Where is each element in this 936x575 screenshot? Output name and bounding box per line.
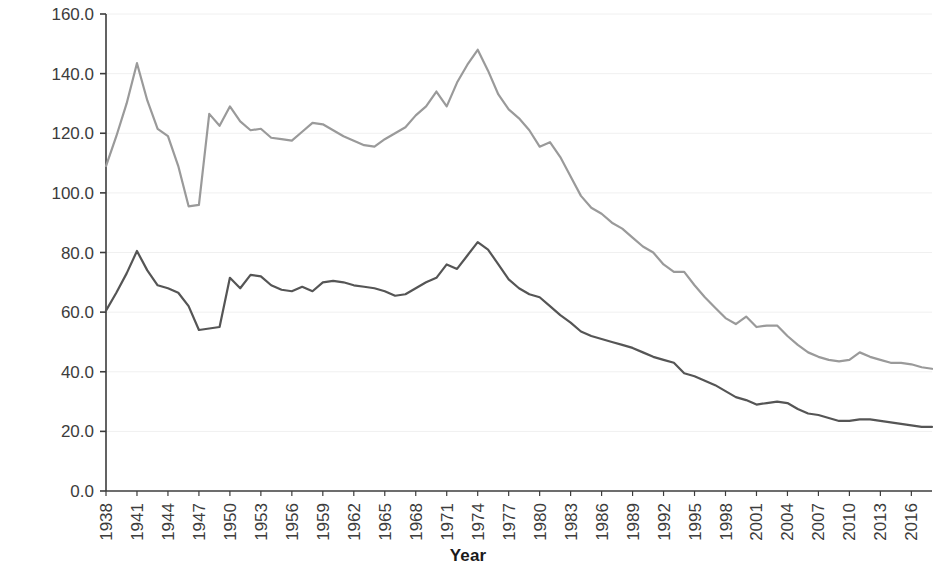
y-tick-label: 20.0 (61, 422, 94, 441)
x-axis (106, 491, 932, 496)
x-tick-label: 1977 (500, 503, 519, 541)
x-tick-label: 1974 (469, 503, 488, 541)
x-tick-label: 1998 (717, 503, 736, 541)
x-tick-label: 2004 (778, 503, 797, 541)
x-tick-label: 1938 (97, 503, 116, 541)
line-chart: 0.020.040.060.080.0100.0120.0140.0160.0 … (0, 0, 936, 575)
x-tick-label: 1956 (283, 503, 302, 541)
x-tick-labels: 1938194119441947195019531956195919621965… (97, 503, 921, 541)
y-tick-labels: 0.020.040.060.080.0100.0120.0140.0160.0 (51, 5, 94, 501)
x-tick-label: 1959 (314, 503, 333, 541)
x-tick-label: 2001 (747, 503, 766, 541)
x-tick-label: 1947 (190, 503, 209, 541)
y-tick-label: 160.0 (51, 5, 94, 24)
series-line-upper-series (106, 50, 932, 369)
x-tick-label: 1941 (128, 503, 147, 541)
x-tick-label: 1944 (159, 503, 178, 541)
x-tick-label: 1971 (438, 503, 457, 541)
y-tick-label: 120.0 (51, 124, 94, 143)
x-tick-label: 1992 (655, 503, 674, 541)
y-tick-label: 100.0 (51, 184, 94, 203)
x-tick-label: 1986 (593, 503, 612, 541)
x-axis-title: Year (0, 546, 936, 566)
x-tick-label: 1989 (624, 503, 643, 541)
x-tick-label: 2007 (809, 503, 828, 541)
x-tick-label: 1995 (686, 503, 705, 541)
y-tick-label: 40.0 (61, 363, 94, 382)
x-tick-label: 2010 (840, 503, 859, 541)
x-tick-label: 1962 (345, 503, 364, 541)
x-tick-label: 2013 (871, 503, 890, 541)
x-tick-label: 1950 (221, 503, 240, 541)
x-tick-label: 1953 (252, 503, 271, 541)
y-tick-label: 140.0 (51, 65, 94, 84)
data-series-group (106, 50, 932, 427)
x-tick-label: 1983 (562, 503, 581, 541)
y-axis (100, 14, 106, 491)
x-tick-label: 1965 (376, 503, 395, 541)
series-line-lower-series (106, 242, 932, 427)
gridlines (106, 14, 932, 431)
x-tick-label: 1968 (407, 503, 426, 541)
y-tick-label: 0.0 (70, 482, 94, 501)
x-axis-title-text: Year (450, 546, 487, 565)
chart-container: 0.020.040.060.080.0100.0120.0140.0160.0 … (0, 0, 936, 575)
y-tick-label: 80.0 (61, 244, 94, 263)
y-tick-label: 60.0 (61, 303, 94, 322)
x-tick-label: 1980 (531, 503, 550, 541)
x-tick-label: 2016 (902, 503, 921, 541)
